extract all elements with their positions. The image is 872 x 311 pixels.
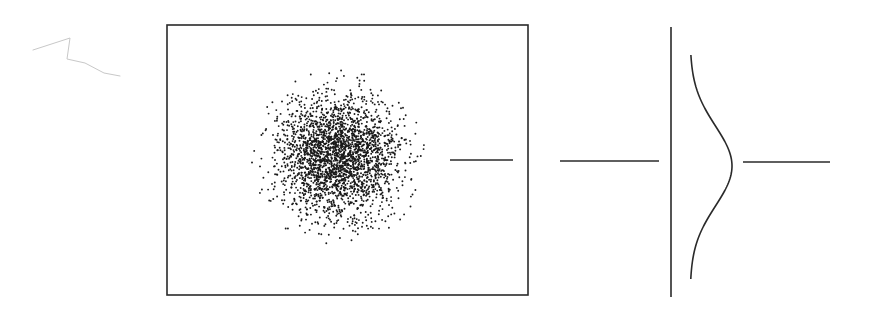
pencil-mark: [33, 38, 120, 76]
gaussian-profile-curve: [691, 55, 732, 279]
scatter-cloud: [251, 70, 425, 245]
diagram-canvas: [0, 0, 872, 311]
